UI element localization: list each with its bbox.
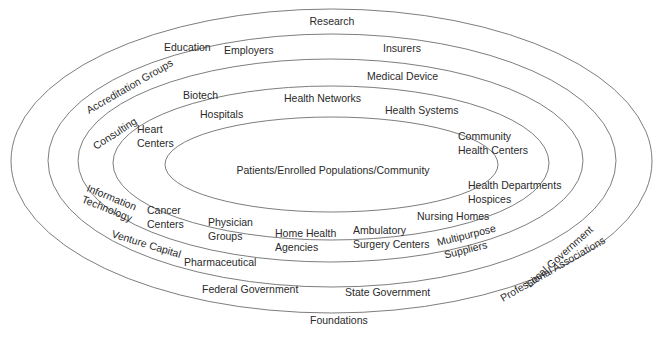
label-pharmaceutical: Pharmaceutical [184,256,256,268]
label-health-networks: Health Networks [284,92,361,104]
label-state-government: State Government [345,286,430,298]
label-health-systems: Health Systems [385,104,459,116]
label-cancer-2: Centers [147,218,184,230]
label-health-departments: Health Departments [468,179,561,191]
label-foundations: Foundations [310,314,368,326]
label-home-health-2: Agencies [275,241,318,253]
label-community-1: Community [458,130,512,142]
label-heart-centers-2: Centers [137,137,174,149]
label-consulting: Consulting [91,115,139,152]
label-medical-device: Medical Device [367,70,438,82]
label-heart-centers-1: Heart [137,123,163,135]
label-ambulatory-2: Surgery Centers [353,238,429,250]
label-venture-capital: Venture Capital [110,227,182,259]
label-home-health-1: Home Health [275,227,336,239]
label-research: Research [310,15,355,27]
label-community-2: Health Centers [458,144,528,156]
label-biotech: Biotech [183,89,218,101]
label-ambulatory-1: Ambulatory [353,224,407,236]
label-professional-associations: Professional Associations [498,234,607,304]
label-nursing-homes: Nursing Homes [417,210,489,222]
label-hospitals: Hospitals [200,108,243,120]
label-federal-government: Federal Government [202,283,298,295]
label-hospices: Hospices [468,193,511,205]
center-label: Patients/Enrolled Populations/Community [236,164,430,176]
label-insurers: Insurers [383,42,421,54]
label-accreditation-groups: Accreditation Groups [84,56,175,115]
stakeholder-ring-diagram: Patients/Enrolled Populations/Community … [0,0,664,343]
label-physician-1: Physician [208,216,253,228]
ring-3 [48,34,616,287]
label-physician-2: Groups [208,230,242,242]
label-employers: Employers [224,44,274,56]
label-cancer-1: Cancer [147,204,181,216]
label-education: Education [164,41,211,53]
